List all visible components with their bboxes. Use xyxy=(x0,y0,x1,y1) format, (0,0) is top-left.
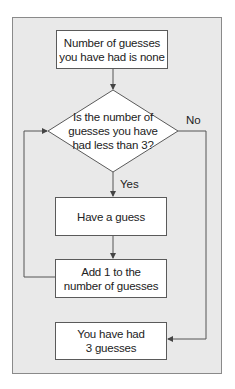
end-text-line1: You have had xyxy=(77,327,145,341)
increment-text-line2: number of guesses xyxy=(64,279,158,293)
start-text-line2: you have had is none xyxy=(59,50,164,64)
decision-text-line3: had less than 3? xyxy=(63,138,163,152)
start-text-line1: Number of guesses xyxy=(59,36,164,50)
decision-text-line1: Is the number of xyxy=(63,110,163,124)
decision-text-line2: guesses you have xyxy=(63,124,163,138)
end-text-line2: 3 guesses xyxy=(77,341,145,355)
decision-text: Is the number of guesses you have had le… xyxy=(63,110,163,152)
guess-text: Have a guess xyxy=(77,210,145,224)
yes-label: Yes xyxy=(120,178,139,190)
guess-box: Have a guess xyxy=(55,197,167,236)
no-label: No xyxy=(186,114,201,126)
increment-box: Add 1 to the number of guesses xyxy=(55,259,167,298)
increment-text-line1: Add 1 to the xyxy=(64,265,158,279)
start-box: Number of guesses you have had is none xyxy=(56,30,168,69)
end-box: You have had 3 guesses xyxy=(55,322,167,360)
